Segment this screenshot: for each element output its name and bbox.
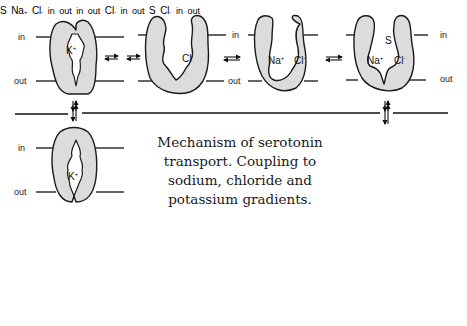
state-top-2-cl-bound: Cl- in out — [138, 15, 241, 93]
equilibrium-arrow-vertical — [73, 105, 388, 124]
state-top-4-substrate-bound: S Na+ Cl- in out — [346, 15, 453, 90]
na-ion-label: Na+ — [268, 55, 285, 66]
out-label: out — [14, 187, 27, 197]
out-label: out — [440, 74, 453, 84]
divider-line — [15, 113, 448, 114]
caption-line: Mechanism of serotonin — [140, 133, 340, 152]
equilibrium-arrow — [224, 57, 240, 60]
transporter-protein — [255, 15, 306, 90]
caption-line: potassium gradients. — [140, 190, 340, 209]
na-ion-label: Na+ — [367, 55, 384, 66]
transporter-protein — [146, 15, 209, 93]
transporter-protein — [354, 15, 414, 90]
equilibrium-arrow-vertical — [73, 101, 388, 111]
state-top-3-na-cl-bound: Na+ Cl- — [248, 15, 318, 90]
caption-line: transport. Coupling to — [140, 152, 340, 171]
equilibrium-arrow — [105, 56, 140, 59]
in-label: in — [440, 30, 447, 40]
caption-line: sodium, chloride and — [140, 171, 340, 190]
out-label: out — [14, 76, 27, 86]
in-label: in — [18, 143, 25, 153]
out-label: out — [228, 76, 241, 86]
figure-caption: Mechanism of serotonin transport. Coupli… — [140, 133, 340, 209]
state-middle-left-k-occluded: K+ in out — [14, 128, 124, 203]
state-top-1-k-occluded: K+ in out — [14, 20, 124, 94]
substrate-label: S — [385, 35, 392, 46]
in-label: in — [18, 32, 25, 42]
equilibrium-arrow — [326, 57, 342, 60]
in-label: in — [232, 30, 239, 40]
